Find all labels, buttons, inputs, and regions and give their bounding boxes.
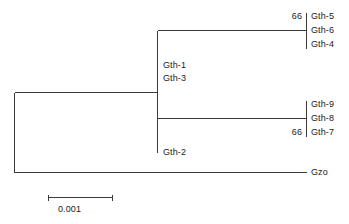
phylogenetic-tree-figure: Gth-5 Gth-6 Gth-4 Gth-9 Gth-8 Gth-7 Gzo … [0, 0, 349, 224]
tip-label-gth-6: Gth-6 [311, 25, 334, 35]
tip-label-gzo: Gzo [311, 167, 328, 177]
support-value-lower-clade: 66 [278, 127, 302, 137]
scale-bar-label: 0.001 [58, 204, 81, 214]
support-value-upper-clade: 66 [278, 11, 302, 21]
tip-label-gth-5: Gth-5 [311, 11, 334, 21]
tip-label-gth-4: Gth-4 [311, 39, 334, 49]
node-label-gth-1: Gth-1 [163, 60, 186, 70]
tip-label-gth-8: Gth-8 [311, 113, 334, 123]
tree-branches-svg [0, 0, 349, 224]
tip-label-gth-7: Gth-7 [311, 127, 334, 137]
node-label-gth-3: Gth-3 [163, 73, 186, 83]
tip-label-gth-9: Gth-9 [311, 99, 334, 109]
node-label-gth-2: Gth-2 [163, 147, 186, 157]
